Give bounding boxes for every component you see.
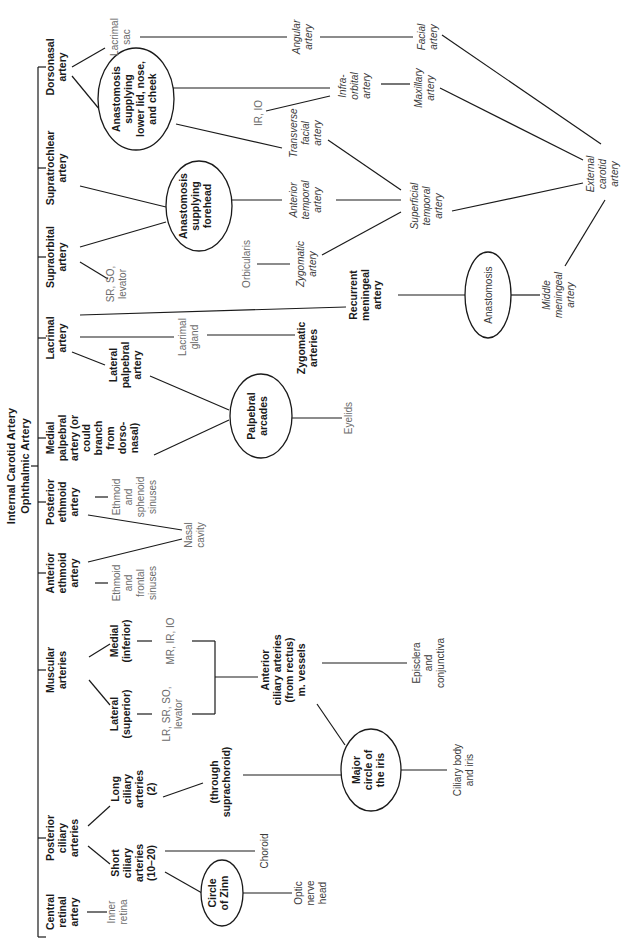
svg-text:meningeal: meningeal <box>359 269 371 321</box>
lr-sr-so-levator-label: LR, SR, SO, levator <box>161 686 184 741</box>
svg-text:supplying: supplying <box>189 181 201 231</box>
svg-text:Circle: Circle <box>206 878 218 907</box>
svg-text:Supraorbital: Supraorbital <box>44 226 56 288</box>
central-retinal-artery-label: Central retinal artery <box>44 894 80 930</box>
svg-text:conjunctiva: conjunctiva <box>435 638 446 688</box>
svg-text:sinuses: sinuses <box>147 566 158 600</box>
svg-text:temporal: temporal <box>300 180 311 220</box>
svg-text:arteries: arteries <box>307 329 319 367</box>
svg-text:artery: artery <box>371 280 383 309</box>
svg-text:MR, IR, IO: MR, IR, IO <box>165 617 176 664</box>
svg-text:artery: artery <box>433 192 444 219</box>
svg-text:Ethmoid: Ethmoid <box>111 479 122 516</box>
transverse-facial-artery-label: Transverse facial artery <box>288 108 323 158</box>
svg-text:Anastomosis: Anastomosis <box>483 266 494 323</box>
ophthalmic-artery-diagram: Internal Carotid Artery Ophthalmic Arter… <box>0 0 627 950</box>
svg-text:Anterior: Anterior <box>44 553 56 594</box>
superficial-temporal-artery-label: Superficial temporal artery <box>409 182 444 229</box>
svg-text:Dorsonasal: Dorsonasal <box>44 38 56 95</box>
posterior-ethmoid-artery-label: Posterior ethmoid artery <box>44 479 80 525</box>
svg-text:sphenoid: sphenoid <box>135 477 146 518</box>
svg-text:cavity: cavity <box>195 522 206 548</box>
svg-text:Anastomosis: Anastomosis <box>177 173 189 239</box>
svg-text:artery: artery <box>307 250 318 277</box>
svg-text:(superior): (superior) <box>120 689 132 738</box>
svg-text:nasal): nasal) <box>128 423 140 453</box>
svg-text:ciliary arteries: ciliary arteries <box>271 634 283 705</box>
svg-text:Nasal: Nasal <box>183 522 194 548</box>
external-artery-labels: Zygomatic artery Anterior temporal arter… <box>288 19 620 318</box>
ir-io-label: IR, IO <box>253 100 264 126</box>
svg-text:External: External <box>585 155 596 192</box>
eyelids-label: Eyelids <box>343 402 354 434</box>
svg-text:lower lid, nose,: lower lid, nose, <box>134 61 146 137</box>
svg-text:artery: artery <box>312 119 323 146</box>
svg-text:could: could <box>80 424 92 452</box>
infraorbital-artery-label: Infra- orbital artery <box>337 72 372 100</box>
inner-retina-label: Inner retina <box>106 899 129 924</box>
svg-text:gland: gland <box>189 325 200 349</box>
ethmoid-sphenoid-sinuses-label: Ethmoid and sphenoid sinuses <box>111 477 158 518</box>
mr-ir-io-label: MR, IR, IO <box>165 617 176 664</box>
svg-text:Facial: Facial <box>416 23 427 50</box>
svg-text:SR, SO,: SR, SO, <box>105 266 116 303</box>
svg-text:Eyelids: Eyelids <box>343 402 354 434</box>
svg-text:Episclera: Episclera <box>411 642 422 684</box>
muscular-arteries-label: Muscular arteries <box>44 647 68 693</box>
svg-text:temporal: temporal <box>421 186 432 226</box>
svg-text:and iris: and iris <box>464 754 475 786</box>
through-suprachoroid-label: (through suprachoroid) <box>208 747 232 818</box>
facial-artery-label: Facial artery <box>416 23 439 50</box>
svg-text:m. vessels: m. vessels <box>295 643 307 696</box>
anterior-ethmoid-artery-label: Anterior ethmoid artery <box>44 553 80 594</box>
diagram-canvas: Internal Carotid Artery Ophthalmic Arter… <box>0 0 627 950</box>
svg-text:nerve: nerve <box>305 880 316 905</box>
svg-text:ciliary: ciliary <box>56 823 68 854</box>
svg-text:artery: artery <box>56 153 68 182</box>
svg-text:artery (or: artery (or <box>68 415 80 461</box>
svg-text:Superficial: Superficial <box>409 182 420 229</box>
svg-text:Anastomosis: Anastomosis <box>110 66 122 132</box>
svg-text:Palpebral: Palpebral <box>245 392 257 439</box>
svg-text:Anterior: Anterior <box>288 182 299 219</box>
posterior-ciliary-arteries-label: Posterior ciliary arteries <box>44 815 80 861</box>
svg-text:Supratrochlear: Supratrochlear <box>44 131 56 206</box>
ciliary-body-and-iris-label: Ciliary body and iris <box>452 744 475 796</box>
lacrimal-artery-label: Lacrimal artery <box>44 316 68 359</box>
svg-text:retina: retina <box>118 899 129 924</box>
svg-text:Zygomatic: Zygomatic <box>295 322 307 375</box>
svg-text:arteries: arteries <box>68 819 80 857</box>
svg-text:Lacrimal: Lacrimal <box>177 318 188 356</box>
optic-nerve-head-label: Optic nerve head <box>293 880 328 905</box>
svg-text:arcades: arcades <box>257 396 269 436</box>
choroid-label: Choroid <box>259 833 270 868</box>
svg-text:ciliary: ciliary <box>121 848 133 879</box>
svg-text:levator: levator <box>173 698 184 729</box>
svg-text:Choroid: Choroid <box>259 833 270 868</box>
svg-text:forehead: forehead <box>201 184 213 228</box>
lateral-superior-label: Lateral (superior) <box>108 689 132 738</box>
svg-text:Long: Long <box>109 776 121 802</box>
svg-text:artery: artery <box>131 350 143 379</box>
svg-text:artery: artery <box>56 52 68 81</box>
svg-text:artery: artery <box>68 558 80 587</box>
svg-text:Inner: Inner <box>106 900 117 923</box>
svg-text:Transverse: Transverse <box>288 108 299 158</box>
svg-text:ethmoid: ethmoid <box>56 553 68 594</box>
svg-text:artery: artery <box>361 72 372 99</box>
supratrochlear-artery-label: Supratrochlear artery <box>44 131 68 206</box>
svg-text:artery: artery <box>565 281 576 308</box>
svg-text:(2): (2) <box>145 783 157 796</box>
episclera-conjunctiva-label: Episclera and conjunctiva <box>411 638 446 688</box>
svg-text:Infra-: Infra- <box>337 74 348 98</box>
svg-text:Ethmoid: Ethmoid <box>111 565 122 602</box>
svg-text:palpebral: palpebral <box>56 415 68 462</box>
supraorbital-artery-label: Supraorbital artery <box>44 226 68 288</box>
sr-so-levator-label: SR, SO, levator <box>105 266 128 303</box>
svg-text:and: and <box>423 655 434 672</box>
svg-text:artery: artery <box>56 323 68 352</box>
svg-text:artery: artery <box>303 23 314 50</box>
anastomosis-meningeal-label: Anastomosis <box>483 266 494 323</box>
svg-text:(inferior): (inferior) <box>120 619 132 662</box>
svg-text:arteries: arteries <box>133 770 145 808</box>
